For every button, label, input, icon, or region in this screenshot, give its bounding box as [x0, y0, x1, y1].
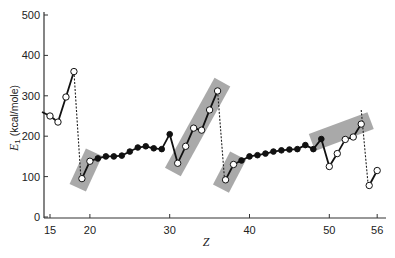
filled-marker	[271, 149, 277, 155]
open-marker	[63, 94, 69, 100]
x-tick-label: 30	[164, 224, 176, 236]
highlight-bands	[70, 78, 374, 193]
open-marker	[198, 127, 204, 133]
open-marker	[87, 158, 93, 164]
filled-marker	[127, 149, 133, 155]
filled-marker	[135, 145, 141, 151]
open-marker	[190, 125, 196, 131]
open-marker	[358, 121, 364, 127]
filled-marker	[103, 154, 109, 160]
open-marker	[214, 88, 220, 94]
x-tick-label: 50	[323, 224, 335, 236]
open-marker	[182, 143, 188, 149]
open-marker	[71, 68, 77, 74]
filled-marker	[111, 154, 117, 160]
open-marker	[366, 182, 372, 188]
y-tick-label: 500	[22, 9, 40, 21]
filled-marker	[311, 146, 317, 152]
open-marker	[230, 161, 236, 167]
open-marker	[342, 136, 348, 142]
filled-marker	[247, 154, 253, 160]
open-marker	[174, 160, 180, 166]
filled-marker	[255, 152, 261, 158]
y-tick-label: 0	[34, 211, 40, 223]
open-marker	[350, 134, 356, 140]
open-marker	[79, 175, 85, 181]
x-ticks: 152030405056	[44, 214, 383, 236]
svg-text:E1 (kcal/mole): E1 (kcal/mole)	[7, 85, 22, 152]
x-tick-label: 20	[84, 224, 96, 236]
filled-marker	[287, 147, 293, 153]
filled-marker	[263, 151, 269, 157]
dashed-drop	[74, 72, 81, 179]
y-tick-label: 300	[22, 90, 40, 102]
filled-marker	[279, 148, 285, 154]
open-marker	[47, 113, 53, 119]
filled-marker	[167, 131, 173, 137]
y-axis-title: E1 (kcal/mole)	[7, 85, 22, 152]
open-marker	[55, 119, 61, 125]
ionization-energy-chart: 0100200300400500 152030405056 Z E1 (kcal…	[0, 0, 395, 258]
y-tick-label: 200	[22, 130, 40, 142]
open-marker	[374, 167, 380, 173]
x-tick-label: 56	[371, 224, 383, 236]
open-marker	[334, 150, 340, 156]
filled-marker	[143, 144, 149, 150]
y-tick-label: 400	[22, 49, 40, 61]
filled-marker	[119, 153, 125, 159]
open-marker	[206, 107, 212, 113]
x-tick-label: 15	[44, 224, 56, 236]
open-marker	[222, 177, 228, 183]
axes	[44, 12, 386, 218]
filled-marker	[239, 158, 245, 164]
filled-marker	[95, 156, 101, 162]
filled-marker	[159, 146, 165, 152]
filled-marker	[295, 146, 301, 152]
filled-marker	[303, 142, 309, 148]
y-tick-label: 100	[22, 171, 40, 183]
filled-marker	[319, 136, 325, 142]
filled-marker	[151, 146, 157, 152]
x-axis-title: Z	[203, 235, 210, 249]
x-tick-label: 40	[243, 224, 255, 236]
open-marker	[326, 163, 332, 169]
